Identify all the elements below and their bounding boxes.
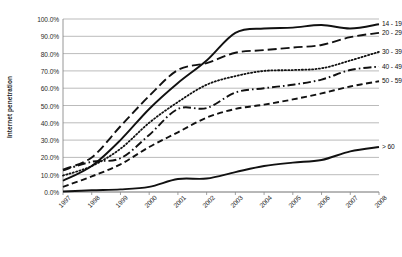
- x-tick-label: 2007: [344, 194, 359, 209]
- series-line: [63, 81, 379, 187]
- y-tick-label: 10.0%: [41, 171, 59, 178]
- series-label: 50 - 59: [382, 77, 402, 84]
- x-tick-label: 2003: [229, 194, 244, 209]
- x-tick-label: 1998: [86, 194, 101, 209]
- y-tick-label: 70.0%: [41, 67, 59, 74]
- y-axis-tick-labels: 100.0%90.0%80.0%70.0%60.0%50.0%40.0%30.0…: [18, 0, 62, 215]
- series-label: 20 - 29: [382, 29, 402, 36]
- y-tick-label: 100.0%: [37, 16, 59, 23]
- series-label: 14 - 19: [382, 20, 402, 27]
- x-tick-label: 2001: [172, 194, 187, 209]
- x-tick-label: 1999: [114, 194, 129, 209]
- y-tick-label: 60.0%: [41, 85, 59, 92]
- x-tick-label: 2008: [373, 194, 388, 209]
- y-axis-title-text: Internet penetration: [6, 76, 13, 138]
- x-axis-tick-labels: 1997199819992000200120022003200420052006…: [63, 194, 379, 234]
- series-label: > 60: [382, 143, 395, 150]
- x-tick-label: 2006: [315, 194, 330, 209]
- plot-area: [63, 19, 379, 192]
- x-tick-label: 2000: [143, 194, 158, 209]
- y-tick-label: 0.0%: [44, 189, 59, 196]
- y-axis-title: Internet penetration: [0, 0, 18, 215]
- x-tick-label: 2004: [258, 194, 273, 209]
- y-tick-label: 30.0%: [41, 137, 59, 144]
- x-tick-label: 2005: [287, 194, 302, 209]
- y-tick-label: 90.0%: [41, 33, 59, 40]
- plot-svg: [63, 19, 379, 192]
- y-tick-label: 20.0%: [41, 154, 59, 161]
- x-tick-label: 2002: [201, 194, 216, 209]
- y-tick-label: 50.0%: [41, 102, 59, 109]
- series-label: 30 - 39: [382, 48, 402, 55]
- y-tick-label: 40.0%: [41, 119, 59, 126]
- series-label: 40 - 49: [382, 63, 402, 70]
- y-tick-label: 80.0%: [41, 50, 59, 57]
